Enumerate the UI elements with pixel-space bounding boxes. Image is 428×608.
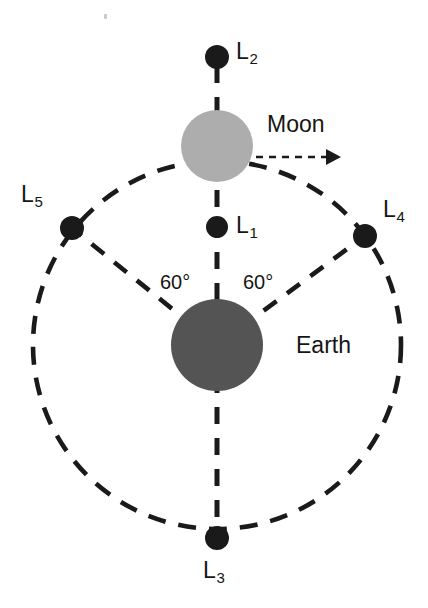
lagrange-point-L3-dot[interactable] [205,526,229,550]
lagrange-label-L1-letter: L [236,212,249,238]
lagrange-label-L2-letter: L [236,38,249,64]
lagrange-label-L5-index: 5 [35,193,44,210]
lagrange-point-L5-dot[interactable] [60,216,84,240]
lagrange-label-L1: L1 [236,214,258,237]
lagrange-label-L3-index: 3 [217,569,226,586]
lagrange-label-L3-letter: L [203,557,216,583]
lagrange-label-L5: L5 [21,183,43,206]
lagrange-label-L4-index: 4 [397,208,406,225]
earth-label: Earth [296,334,351,357]
lagrange-label-L4: L4 [383,198,405,221]
lagrange-label-L5-letter: L [21,181,34,207]
lagrange-label-L2: L2 [236,40,258,63]
moon-body [181,110,253,182]
lagrange-label-L4-letter: L [383,196,396,222]
earth-body [171,299,263,391]
angle-label-left: 60° [160,272,190,292]
lagrange-label-L3: L3 [203,559,225,582]
moon-velocity-arrow [256,149,341,165]
angle-label-right: 60° [243,272,273,292]
lagrange-diagram: Earth Moon L1 L2 L3 L4 L5 60° 60° [0,0,428,608]
lagrange-label-L2-index: 2 [250,50,259,67]
lagrange-point-L4-dot[interactable] [353,224,377,248]
moon-velocity-arrow-head [326,149,341,165]
lagrange-point-L1-dot[interactable] [206,216,228,238]
scan-speck [104,14,107,19]
diagram-canvas [0,0,428,608]
moon-label: Moon [267,113,325,136]
lagrange-point-L2-dot[interactable] [205,45,229,69]
lagrange-label-L1-index: 1 [250,224,259,241]
